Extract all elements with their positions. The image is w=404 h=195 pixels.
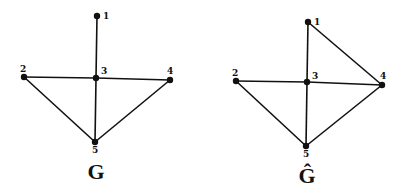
edge-1-3 — [307, 22, 308, 82]
node-label: 2 — [232, 68, 238, 78]
edge-3-5 — [306, 82, 307, 146]
edge-2-3 — [236, 81, 307, 82]
edge-2-5 — [236, 81, 306, 146]
node-label: 5 — [303, 149, 309, 159]
node-label: 1 — [103, 11, 109, 21]
node-label: 2 — [20, 64, 26, 74]
edge-2-3 — [24, 77, 96, 78]
graph-g-hat: 12345Ĝ — [232, 17, 386, 188]
edge-3-4 — [96, 78, 170, 80]
edge-3-4 — [307, 82, 382, 85]
node-1 — [305, 19, 311, 25]
graph-label: Ĝ — [298, 163, 315, 188]
node-4 — [379, 82, 385, 88]
edge-3-5 — [95, 78, 96, 142]
edge-2-5 — [24, 77, 95, 142]
node-label: 3 — [312, 71, 318, 81]
node-1 — [94, 13, 100, 19]
node-3 — [304, 79, 310, 85]
edge-4-5 — [95, 80, 170, 142]
node-3 — [93, 75, 99, 81]
graph-g: 12345G — [20, 11, 173, 184]
edge-1-4 — [308, 22, 382, 85]
node-2 — [21, 74, 27, 80]
node-4 — [167, 77, 173, 83]
edge-4-5 — [306, 85, 382, 146]
node-2 — [233, 78, 239, 84]
edge-1-3 — [96, 16, 97, 78]
node-label: 5 — [92, 145, 98, 155]
node-label: 4 — [380, 71, 386, 81]
graph-label: G — [87, 159, 104, 184]
graph-figure: 12345G 12345Ĝ — [0, 0, 404, 195]
node-label: 3 — [101, 66, 107, 76]
node-label: 4 — [167, 66, 173, 76]
node-label: 1 — [314, 17, 320, 27]
